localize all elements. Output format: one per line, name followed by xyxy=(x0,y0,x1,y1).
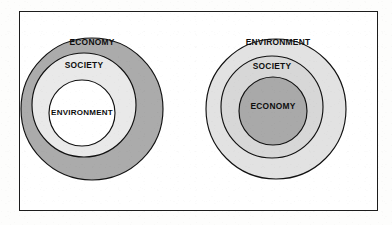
right-diagram-group: ENVIRONMENT SOCIETY ECONOMY xyxy=(206,37,346,179)
figure-frame-border: ECONOMY SOCIETY ENVIRONMENT ENVIRONMENT … xyxy=(19,11,378,211)
left-label-economy: ECONOMY xyxy=(69,37,114,47)
right-label-economy: ECONOMY xyxy=(250,101,295,111)
left-diagram-group: ECONOMY SOCIETY ENVIRONMENT xyxy=(21,37,163,180)
right-label-society: SOCIETY xyxy=(253,61,292,71)
scanned-page-canvas: ECONOMY SOCIETY ENVIRONMENT ENVIRONMENT … xyxy=(0,0,392,225)
right-label-environment: ENVIRONMENT xyxy=(246,37,311,47)
left-label-environment: ENVIRONMENT xyxy=(51,108,113,117)
left-label-society: SOCIETY xyxy=(65,60,104,70)
nested-circles-diagram: ECONOMY SOCIETY ENVIRONMENT ENVIRONMENT … xyxy=(20,12,377,210)
